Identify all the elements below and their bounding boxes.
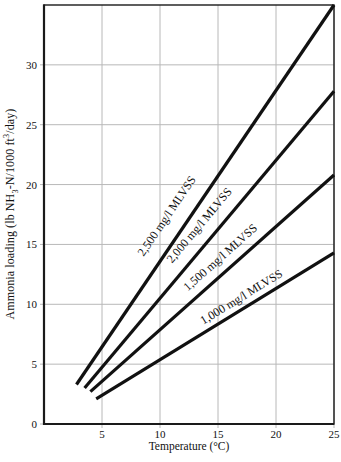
series-line-2000-mlvss (85, 91, 334, 388)
tick-label-y-10: 10 (26, 298, 38, 310)
tick-label-y-15: 15 (26, 238, 38, 250)
y-axis-title-pre: Ammonia loading (lb NH (3, 194, 17, 320)
plot-canvas: 2,500 mg/l MLVSS2,000 mg/l MLVSS1,500 mg… (0, 0, 341, 462)
y-axis-title: Ammonia loading (lb NH3-N/1000 ft3/day) (2, 109, 19, 320)
tick-label-y-30: 30 (26, 59, 38, 71)
series-label-1000-mlvss: 1,000 mg/l MLVSS (198, 266, 285, 327)
tick-label-y-20: 20 (26, 179, 38, 191)
tick-label-y-5: 5 (32, 358, 38, 370)
y-axis-title-subscript: 3 (11, 189, 20, 193)
ammonia-loading-chart: 2,500 mg/l MLVSS2,000 mg/l MLVSS1,500 mg… (0, 0, 341, 462)
tick-label-x-5: 5 (99, 428, 105, 440)
y-axis-title-superscript: 3 (2, 134, 11, 138)
x-axis-title: Temperature (°C) (149, 440, 230, 452)
tick-label-x-15: 15 (213, 428, 225, 440)
tick-label-y-0: 0 (32, 418, 38, 430)
tick-label-x-25: 25 (329, 428, 341, 440)
tick-label-y-25: 25 (26, 119, 38, 131)
tick-label-x-20: 20 (271, 428, 283, 440)
series-line-1000-mlvss (96, 253, 334, 399)
y-axis-title-post: /day) (3, 109, 17, 134)
tick-label-x-10: 10 (155, 428, 167, 440)
y-axis-title-mid: -N/1000 ft (3, 138, 17, 189)
series-line-2500-mlvss (76, 5, 334, 384)
